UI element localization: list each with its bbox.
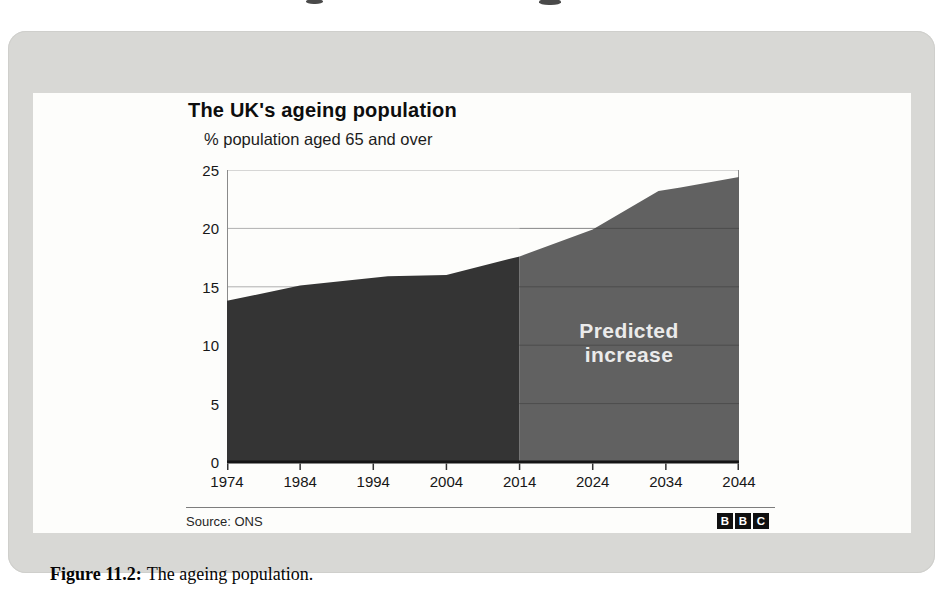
- bbc-logo-letter: C: [753, 513, 769, 529]
- x-tick-label: 2014: [494, 473, 546, 490]
- predicted-annotation-line2: increase: [549, 343, 709, 367]
- y-tick-label: 5: [187, 396, 219, 413]
- cropped-text-fragment: [306, 0, 323, 4]
- cropped-text-fragment: [539, 0, 561, 5]
- figure-caption-text: The ageing population.: [147, 564, 313, 584]
- chart-subtitle: % population aged 65 and over: [204, 130, 432, 149]
- predicted-annotation-line1: Predicted: [549, 319, 709, 343]
- bbc-chart-image: The UK's ageing population % population …: [33, 93, 911, 533]
- x-tick-label: 2044: [713, 473, 765, 490]
- y-tick-label: 0: [187, 454, 219, 471]
- x-tick-label: 1984: [274, 473, 326, 490]
- x-tick-label: 1994: [347, 473, 399, 490]
- chart-title: The UK's ageing population: [188, 99, 457, 122]
- figure-caption-label: Figure 11.2:: [50, 564, 142, 584]
- x-tick-label: 2034: [640, 473, 692, 490]
- y-tick-label: 20: [187, 220, 219, 237]
- x-tick-label: 1974: [201, 473, 253, 490]
- figure-caption: Figure 11.2:The ageing population.: [50, 564, 313, 585]
- footer-divider-line: [186, 507, 775, 508]
- figure-box-panel: The UK's ageing population % population …: [8, 31, 935, 573]
- bbc-logo: B B C: [717, 513, 769, 529]
- chart-source: Source: ONS: [186, 514, 263, 529]
- y-tick-label: 15: [187, 279, 219, 296]
- x-axis-line: [227, 461, 739, 464]
- y-tick-label: 10: [187, 337, 219, 354]
- x-tick-label: 2004: [420, 473, 472, 490]
- x-tick-label: 2024: [567, 473, 619, 490]
- predicted-increase-annotation: Predicted increase: [549, 319, 709, 367]
- bbc-logo-letter: B: [735, 513, 751, 529]
- bbc-logo-letter: B: [717, 513, 733, 529]
- y-tick-label: 25: [187, 162, 219, 179]
